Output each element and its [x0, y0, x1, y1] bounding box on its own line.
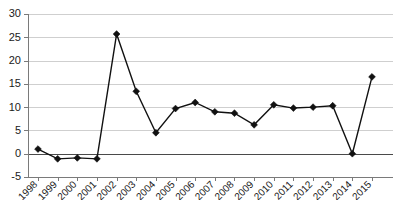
y-tick-label: 20 [9, 54, 21, 66]
x-axis-labels: 1998199920002001200220032004200520062007… [16, 178, 374, 200]
x-tick-label: 2001 [75, 178, 99, 200]
x-tick-label: 2010 [252, 178, 276, 200]
data-point-marker [310, 104, 317, 111]
data-point-marker [74, 155, 81, 162]
x-tick-label: 2005 [153, 178, 177, 200]
x-tick-label: 2015 [350, 178, 374, 200]
x-tick-label: 2012 [291, 178, 315, 200]
data-point-marker [211, 108, 218, 115]
data-point-marker [94, 155, 101, 162]
x-tick-label: 2002 [94, 178, 118, 200]
y-tick-label: 25 [9, 31, 21, 43]
x-tick-label: 2008 [212, 178, 236, 200]
x-tick-label: 1999 [36, 178, 60, 200]
data-point-marker [290, 105, 297, 112]
data-point-marker [133, 88, 140, 95]
data-point-marker [231, 110, 238, 117]
x-tick-label: 2011 [272, 178, 295, 200]
y-tick-label: 15 [9, 77, 21, 89]
y-tick-label: 5 [15, 124, 21, 136]
y-tick-label: -5 [11, 170, 21, 182]
x-tick-label: 2007 [193, 178, 217, 200]
data-point-marker [369, 73, 376, 80]
x-tick-label: 2006 [173, 178, 197, 200]
gridlines-group [28, 15, 393, 155]
data-point-marker [54, 155, 61, 162]
data-point-marker [349, 150, 356, 157]
series-line-1 [38, 34, 372, 159]
x-tick-label: 2009 [232, 178, 256, 200]
data-point-marker [192, 99, 199, 106]
y-tick-label: 0 [15, 147, 21, 159]
data-point-marker [35, 146, 42, 153]
y-tick-label: 10 [9, 101, 21, 113]
x-tick-label: 2004 [134, 178, 158, 200]
x-tick-label: 2003 [114, 178, 138, 200]
chart-canvas: -505101520253019981999200020012002200320… [0, 0, 394, 200]
x-tick-label: 2014 [330, 178, 354, 200]
x-tick-label: 2013 [311, 178, 335, 200]
y-axis-ticks: -5051015202530 [9, 7, 28, 182]
line-chart: -505101520253019981999200020012002200320… [0, 0, 394, 200]
y-tick-label: 30 [9, 7, 21, 19]
data-point-marker [113, 31, 120, 38]
x-tick-label: 2000 [55, 178, 79, 200]
data-point-markers [35, 31, 376, 163]
